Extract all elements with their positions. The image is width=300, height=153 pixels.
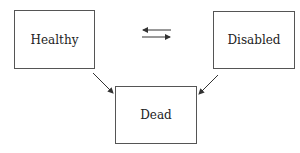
arrow-healthy-to-dead [93,73,113,93]
node-disabled: Disabled [213,11,295,69]
node-label: Dead [140,108,172,122]
arrow-disabled-to-dead [199,75,218,94]
node-label: Disabled [227,33,280,47]
node-label: Healthy [31,33,79,47]
node-healthy: Healthy [14,10,95,69]
node-dead: Dead [115,86,197,144]
